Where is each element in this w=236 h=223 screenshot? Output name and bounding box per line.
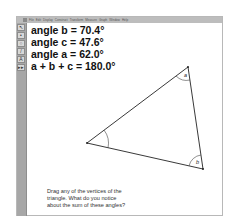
triangle[interactable] (87, 67, 203, 169)
angle-arc-b (189, 155, 201, 166)
angle-arc-a (176, 76, 190, 80)
angle-label-b: b (196, 159, 199, 165)
angle-label-a: a (184, 72, 187, 78)
angle-arc-c (104, 130, 109, 148)
vertex-a-handle[interactable] (187, 66, 189, 68)
vertex-c-handle[interactable] (86, 142, 88, 144)
triangle-figure: a b (0, 0, 236, 223)
vertex-b-handle[interactable] (202, 168, 204, 170)
